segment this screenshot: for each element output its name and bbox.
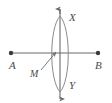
midpoint-pointer-arrow — [41, 52, 56, 70]
geometry-figure: A B M X Y — [0, 0, 112, 103]
compass-arc-from-a — [52, 16, 60, 92]
compass-arc-from-b — [60, 16, 68, 92]
construction-diagram-svg — [0, 0, 112, 103]
label-point-x: X — [69, 12, 76, 23]
label-point-y: Y — [69, 80, 75, 91]
label-point-b: B — [95, 60, 102, 71]
label-point-m: M — [30, 68, 38, 79]
endpoint-b-dot — [96, 51, 100, 55]
endpoint-a-dot — [9, 51, 13, 55]
label-point-a: A — [9, 60, 16, 71]
